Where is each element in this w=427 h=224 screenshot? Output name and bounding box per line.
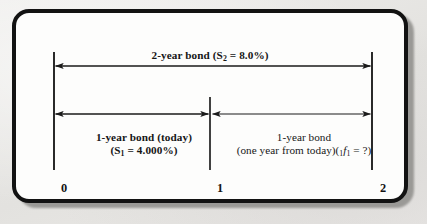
- timeline-vector-graphics: [16, 13, 404, 199]
- label-spot-rate-lead: (S: [110, 144, 120, 156]
- label-two-year-bond: 2-year bond (S2 = 8.0%): [16, 49, 404, 62]
- label-one-year-bond-forward-line1: 1-year bond: [221, 131, 387, 144]
- label-one-year-bond-forward-line2: (one year from today)(1f1 = ?): [221, 144, 387, 157]
- scanned-page-background: 2-year bond (S2 = 8.0%) 1-year bond (tod…: [0, 0, 427, 224]
- axis-tick-label-1: 1: [217, 181, 223, 196]
- label-two-year-bond-tail: = 8.0%): [227, 49, 269, 61]
- label-spot-rate-tail: = 4.000%): [125, 144, 178, 156]
- timeline-diagram-canvas: 2-year bond (S2 = 8.0%) 1-year bond (tod…: [16, 13, 404, 199]
- label-one-year-bond-today: 1-year bond (today) (S1 = 4.000%): [64, 131, 224, 157]
- label-forward-rate-tail: = ?): [350, 144, 371, 156]
- axis-tick-label-2: 2: [380, 181, 386, 196]
- label-one-year-bond-today-line2: (S1 = 4.000%): [64, 144, 224, 157]
- diagram-panel: 2-year bond (S2 = 8.0%) 1-year bond (tod…: [12, 9, 408, 203]
- label-one-year-bond-today-line1: 1-year bond (today): [64, 131, 224, 144]
- label-two-year-bond-lead: 2-year bond (S: [151, 49, 222, 61]
- label-one-year-bond-forward: 1-year bond (one year from today)(1f1 = …: [221, 131, 387, 157]
- label-forward-rate-lead: (one year from today)(: [237, 144, 340, 156]
- axis-tick-label-0: 0: [61, 181, 67, 196]
